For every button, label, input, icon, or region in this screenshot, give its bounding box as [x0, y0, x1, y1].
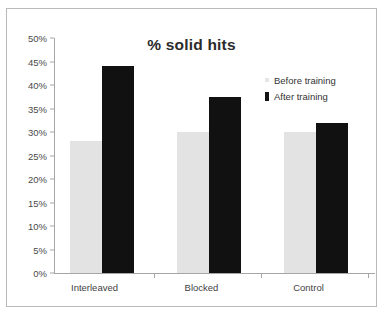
chart-page: % solid hits Before training After train… [0, 0, 386, 317]
x-axis-tick-mark [368, 273, 369, 278]
x-axis-label-blocked: Blocked [185, 282, 219, 293]
y-axis-tick-mark [50, 249, 54, 250]
y-axis-tick-mark [50, 155, 54, 156]
y-axis-tick-mark [50, 273, 54, 274]
y-axis-tick-mark [50, 38, 54, 39]
x-axis-tick-mark [154, 273, 155, 278]
bar-control-after-training [316, 123, 348, 273]
bar-control-before-training [284, 132, 316, 273]
y-axis-tick-mark [50, 85, 54, 86]
y-axis-tick-mark [50, 179, 54, 180]
plot-area: 50%45%40%35%30%25%20%15%10%5%0% [54, 38, 375, 273]
y-axis-tick-mark [50, 202, 54, 203]
bar-blocked-after-training [209, 97, 241, 273]
x-axis-label-control: Control [293, 282, 324, 293]
y-axis-tick-mark [50, 226, 54, 227]
chart-frame: % solid hits Before training After train… [6, 8, 377, 307]
bar-blocked-before-training [177, 132, 209, 273]
bar-interleaved-after-training [102, 66, 134, 273]
bar-interleaved-before-training [70, 141, 102, 273]
y-axis-tick-mark [50, 132, 54, 133]
y-axis-tick-mark [50, 108, 54, 109]
x-axis-label-interleaved: Interleaved [71, 282, 118, 293]
y-axis-tick-mark [50, 61, 54, 62]
x-axis-tick-mark [261, 273, 262, 278]
x-axis-line [54, 273, 375, 274]
